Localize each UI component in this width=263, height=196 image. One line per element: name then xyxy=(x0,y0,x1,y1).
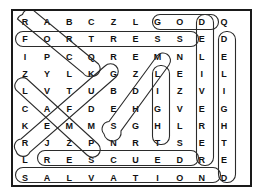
grid-cell-r3-c4[interactable]: G xyxy=(102,66,124,82)
grid-cell-r3-c2[interactable]: L xyxy=(58,66,80,82)
grid-cell-r1-c4[interactable]: R xyxy=(102,31,124,47)
grid-cell-r4-c0[interactable]: L xyxy=(14,83,36,99)
grid-cell-r2-c8[interactable]: L xyxy=(191,49,213,65)
grid-cell-r2-c9[interactable]: E xyxy=(213,49,235,65)
grid-cell-r1-c8[interactable]: E xyxy=(191,31,213,47)
grid-cell-r5-c1[interactable]: A xyxy=(36,101,58,117)
grid-cell-r3-c0[interactable]: Z xyxy=(14,66,36,82)
grid-cell-r1-c0[interactable]: F xyxy=(14,31,36,47)
grid-cell-r6-c8[interactable]: R xyxy=(191,118,213,134)
grid-cell-r5-c6[interactable]: G xyxy=(147,101,169,117)
grid-cell-r2-c6[interactable]: M xyxy=(147,49,169,65)
grid-cell-r8-c6[interactable]: E xyxy=(147,152,169,168)
grid-cell-r8-c7[interactable]: D xyxy=(169,152,191,168)
grid-cell-r0-c1[interactable]: A xyxy=(36,14,58,30)
grid-cell-r1-c5[interactable]: E xyxy=(125,31,147,47)
grid-cell-r4-c9[interactable]: I xyxy=(213,83,235,99)
grid-cell-r2-c2[interactable]: C xyxy=(58,49,80,65)
grid-cell-r0-c6[interactable]: G xyxy=(147,14,169,30)
grid-cell-r1-c1[interactable]: O xyxy=(36,31,58,47)
grid-cell-r2-c5[interactable]: E xyxy=(125,49,147,65)
grid-cell-r1-c2[interactable]: R xyxy=(58,31,80,47)
grid-cell-r7-c1[interactable]: J xyxy=(36,135,58,151)
grid-cell-r9-c1[interactable]: A xyxy=(36,170,58,186)
grid-cell-r8-c2[interactable]: E xyxy=(58,152,80,168)
grid-cell-r2-c1[interactable]: P xyxy=(36,49,58,65)
grid-cell-r7-c3[interactable]: P xyxy=(80,135,102,151)
grid-cell-r5-c8[interactable]: E xyxy=(191,101,213,117)
grid-cell-r7-c7[interactable]: S xyxy=(169,135,191,151)
grid-cell-r0-c4[interactable]: Z xyxy=(102,14,124,30)
grid-cell-r9-c0[interactable]: S xyxy=(14,170,36,186)
grid-cell-r4-c6[interactable]: I xyxy=(147,83,169,99)
grid-cell-r5-c9[interactable]: G xyxy=(213,101,235,117)
grid-cell-r4-c7[interactable]: Z xyxy=(169,83,191,99)
grid-cell-r1-c3[interactable]: T xyxy=(80,31,102,47)
grid-cell-r7-c5[interactable]: R xyxy=(125,135,147,151)
grid-cell-r9-c3[interactable]: V xyxy=(80,170,102,186)
grid-cell-r0-c5[interactable]: L xyxy=(125,14,147,30)
grid-cell-r0-c3[interactable]: C xyxy=(80,14,102,30)
grid-cell-r2-c0[interactable]: I xyxy=(14,49,36,65)
grid-cell-r3-c3[interactable]: K xyxy=(80,66,102,82)
grid-cell-r5-c4[interactable]: E xyxy=(102,101,124,117)
grid-cell-r5-c7[interactable]: V xyxy=(169,101,191,117)
grid-cell-r5-c5[interactable]: H xyxy=(125,101,147,117)
grid-cell-r5-c2[interactable]: F xyxy=(58,101,80,117)
grid-cell-r7-c6[interactable]: T xyxy=(147,135,169,151)
grid-cell-r9-c9[interactable]: D xyxy=(213,170,235,186)
grid-cell-r0-c2[interactable]: B xyxy=(58,14,80,30)
grid-cell-r8-c5[interactable]: U xyxy=(125,152,147,168)
grid-cell-r7-c2[interactable]: Z xyxy=(58,135,80,151)
grid-cell-r9-c7[interactable]: O xyxy=(169,170,191,186)
grid-cell-r2-c7[interactable]: N xyxy=(169,49,191,65)
grid-cell-r6-c7[interactable]: L xyxy=(169,118,191,134)
grid-cell-r5-c3[interactable]: D xyxy=(80,101,102,117)
grid-cell-r0-c9[interactable]: Q xyxy=(213,14,235,30)
grid-cell-r9-c6[interactable]: I xyxy=(147,170,169,186)
grid-cell-r4-c2[interactable]: T xyxy=(58,83,80,99)
grid-cell-r3-c5[interactable]: Z xyxy=(125,66,147,82)
grid-cell-r8-c9[interactable]: E xyxy=(213,152,235,168)
grid-cell-r6-c3[interactable]: M xyxy=(80,118,102,134)
grid-cell-r3-c9[interactable]: L xyxy=(213,66,235,82)
grid-cell-r7-c8[interactable]: E xyxy=(191,135,213,151)
grid-cell-r1-c7[interactable]: S xyxy=(169,31,191,47)
grid-cell-r4-c4[interactable]: B xyxy=(102,83,124,99)
grid-cell-r4-c3[interactable]: U xyxy=(80,83,102,99)
grid-cell-r3-c1[interactable]: Y xyxy=(36,66,58,82)
grid-cell-r9-c2[interactable]: L xyxy=(58,170,80,186)
grid-cell-r6-c2[interactable]: M xyxy=(58,118,80,134)
grid-cell-r6-c6[interactable]: H xyxy=(147,118,169,134)
grid-cell-r6-c4[interactable]: S xyxy=(102,118,124,134)
grid-cell-r3-c6[interactable]: L xyxy=(147,66,169,82)
grid-cell-r1-c9[interactable]: D xyxy=(213,31,235,47)
grid-cell-r4-c1[interactable]: V xyxy=(36,83,58,99)
grid-cell-r4-c5[interactable]: D xyxy=(125,83,147,99)
grid-cell-r6-c5[interactable]: G xyxy=(125,118,147,134)
grid-cell-r7-c0[interactable]: R xyxy=(14,135,36,151)
grid-cell-r3-c7[interactable]: E xyxy=(169,66,191,82)
grid-cell-r8-c8[interactable]: R xyxy=(191,152,213,168)
grid-cell-r9-c5[interactable]: T xyxy=(125,170,147,186)
grid-cell-r3-c8[interactable]: I xyxy=(191,66,213,82)
grid-cell-r7-c9[interactable]: T xyxy=(213,135,235,151)
grid-cell-r8-c3[interactable]: S xyxy=(80,152,102,168)
grid-cell-r2-c4[interactable]: R xyxy=(102,49,124,65)
grid-cell-r5-c0[interactable]: C xyxy=(14,101,36,117)
grid-cell-r8-c0[interactable]: L xyxy=(14,152,36,168)
grid-cell-r4-c8[interactable]: V xyxy=(191,83,213,99)
grid-cell-r9-c4[interactable]: A xyxy=(102,170,124,186)
grid-cell-r0-c0[interactable]: R xyxy=(14,14,36,30)
grid-cell-r9-c8[interactable]: N xyxy=(191,170,213,186)
grid-cell-r1-c6[interactable]: S xyxy=(147,31,169,47)
grid-cell-r8-c4[interactable]: C xyxy=(102,152,124,168)
grid-cell-r6-c0[interactable]: K xyxy=(14,118,36,134)
grid-cell-r8-c1[interactable]: R xyxy=(36,152,58,168)
grid-cell-r7-c4[interactable]: N xyxy=(102,135,124,151)
grid-cell-r6-c9[interactable]: H xyxy=(213,118,235,134)
grid-cell-r0-c7[interactable]: O xyxy=(169,14,191,30)
grid-cell-r6-c1[interactable]: E xyxy=(36,118,58,134)
grid-cell-r0-c8[interactable]: D xyxy=(191,14,213,30)
grid-cell-r2-c3[interactable]: Q xyxy=(80,49,102,65)
